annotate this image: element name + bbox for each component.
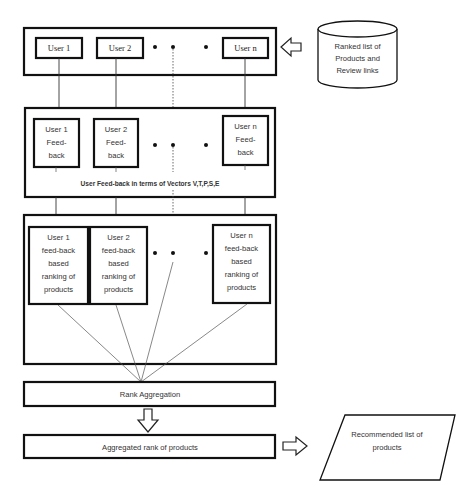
down-arrow-icon — [138, 409, 158, 432]
ranking-container: User 1 feed-back based ranking of produc… — [24, 215, 276, 364]
user-1-ranking-line-5: products — [44, 285, 73, 294]
output-label-line-2: products — [372, 443, 401, 452]
user-n-ranking-line-5: products — [227, 283, 256, 292]
rank-aggregation-box: Rank Aggregation — [24, 382, 275, 406]
user-2-ranking-line-3: based — [108, 259, 129, 268]
user-2-feedback-box: User 2 Feed- back — [94, 119, 138, 167]
user-2-box: User 2 — [97, 38, 143, 58]
user-n-ranking-line-2: feed-back — [225, 244, 259, 253]
user-1-ranking-box: User 1 feed-back based ranking of produc… — [29, 227, 88, 304]
user-1-ranking-line-2: feed-back — [42, 246, 76, 255]
user-1-feedback-box: User 1 Feed- back — [34, 119, 79, 167]
user-2-feedback-line-3: back — [108, 151, 124, 160]
users-container: User 1 User 2 User n — [24, 28, 276, 75]
user-1-ranking-line-4: ranking of — [42, 272, 76, 281]
user-1-ranking-line-1: User 1 — [47, 233, 69, 242]
user-2-ranking-line-5: products — [104, 285, 133, 294]
user-1-feedback-line-3: back — [48, 151, 64, 160]
db-label-line-3: Review links — [336, 66, 378, 75]
feedback-container: User 1 Feed- back User 2 Feed- back User… — [25, 108, 275, 197]
user-2-ranking-line-2: feed-back — [102, 246, 136, 255]
user-1-feedback-line-1: User 1 — [45, 125, 67, 134]
user-2-feedback-line-2: Feed- — [106, 138, 126, 147]
user-1-box: User 1 — [36, 38, 82, 58]
user-n-ranking-line-4: ranking of — [225, 270, 259, 279]
db-label-line-2: Products and — [335, 54, 380, 63]
ranked-products-database: Ranked list of Products and Review links — [318, 21, 397, 88]
user-n-ranking-line-3: based — [231, 257, 252, 266]
user-1-feedback-line-2: Feed- — [47, 138, 67, 147]
user-2-ranking-line-1: User 2 — [107, 233, 129, 242]
user-n-feedback-line-2: Feed- — [236, 135, 256, 144]
user-n-label: User n — [234, 43, 257, 53]
user-n-box: User n — [223, 38, 268, 58]
aggregated-rank-box: Aggregated rank of products — [24, 435, 275, 458]
left-arrow-icon — [281, 38, 301, 56]
output-label-line-1: Recommended list of — [351, 430, 423, 439]
user-n-feedback-line-1: User n — [234, 122, 256, 131]
recommendation-flow-diagram: User 1 User 2 User n Ranked list of Prod… — [0, 0, 469, 499]
rank-aggregation-label: Rank Aggregation — [120, 390, 180, 399]
user-n-ranking-box: User n feed-back based ranking of produc… — [213, 225, 270, 303]
user-2-ranking-line-4: ranking of — [102, 272, 136, 281]
user-2-ranking-box: User 2 feed-back based ranking of produc… — [90, 227, 147, 304]
db-label-line-1: Ranked list of — [334, 42, 381, 51]
feedback-vectors-caption: User Feed-back in terms of Vectors V,T,P… — [81, 180, 220, 188]
user-n-ranking-line-1: User n — [230, 231, 252, 240]
user-n-feedback-box: User n Feed- back — [223, 116, 268, 165]
user-n-feedback-line-3: back — [237, 148, 253, 157]
user-2-feedback-line-1: User 2 — [105, 125, 127, 134]
user-1-label: User 1 — [48, 43, 70, 53]
right-arrow-icon — [283, 437, 307, 455]
user-1-ranking-line-3: based — [48, 259, 69, 268]
recommended-list-output: Recommended list of products — [320, 415, 455, 480]
aggregated-rank-label: Aggregated rank of products — [102, 443, 198, 452]
user-2-label: User 2 — [109, 43, 131, 53]
